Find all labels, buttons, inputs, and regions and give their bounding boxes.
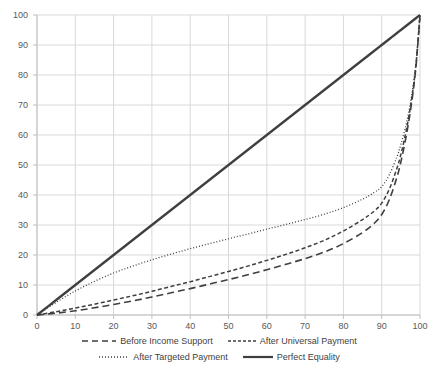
y-axis-tick-label: 20: [4, 250, 28, 260]
x-axis-tick-label: 50: [217, 321, 241, 331]
y-axis-tick-label: 30: [4, 220, 28, 230]
y-axis-tick-label: 70: [4, 100, 28, 110]
chart-legend: Before Income Support After Universal Pa…: [0, 333, 438, 365]
y-axis-tick-label: 40: [4, 190, 28, 200]
x-axis-tick-label: 0: [25, 321, 49, 331]
legend-row-2: After Targeted Payment Perfect Equality: [0, 349, 438, 365]
y-axis-tick-label: 0: [4, 310, 28, 320]
x-axis-tick-label: 90: [370, 321, 394, 331]
lorenz-curve-chart: 0102030405060708090100 01020304050607080…: [0, 0, 438, 377]
y-axis-tick-label: 90: [4, 40, 28, 50]
legend-label: Before Income Support: [120, 336, 213, 346]
legend-sample-short-dash-icon: [227, 336, 257, 346]
legend-label: After Universal Payment: [260, 336, 357, 346]
x-axis-tick-label: 10: [63, 321, 87, 331]
legend-sample-solid-icon: [242, 352, 274, 362]
legend-item-after-universal-payment[interactable]: After Universal Payment: [227, 336, 357, 346]
legend-item-after-targeted-payment[interactable]: After Targeted Payment: [98, 352, 227, 362]
legend-item-perfect-equality[interactable]: Perfect Equality: [242, 352, 340, 362]
x-axis-tick-label: 30: [140, 321, 164, 331]
legend-row-1: Before Income Support After Universal Pa…: [0, 333, 438, 349]
y-axis-tick-label: 80: [4, 70, 28, 80]
x-axis-tick-label: 70: [293, 321, 317, 331]
x-axis-tick-label: 60: [255, 321, 279, 331]
y-axis-tick-label: 10: [4, 280, 28, 290]
x-axis-tick-label: 80: [331, 321, 355, 331]
legend-label: After Targeted Payment: [133, 352, 227, 362]
legend-sample-dotted-icon: [98, 352, 130, 362]
y-axis-tick-label: 50: [4, 160, 28, 170]
legend-sample-long-dash-icon: [81, 336, 117, 346]
x-axis-tick-label: 20: [102, 321, 126, 331]
legend-item-before-income-support[interactable]: Before Income Support: [81, 336, 213, 346]
y-axis-tick-label: 60: [4, 130, 28, 140]
x-axis-tick-label: 40: [178, 321, 202, 331]
legend-label: Perfect Equality: [277, 352, 340, 362]
x-axis-tick-label: 100: [408, 321, 432, 331]
y-axis-tick-label: 100: [4, 10, 28, 20]
